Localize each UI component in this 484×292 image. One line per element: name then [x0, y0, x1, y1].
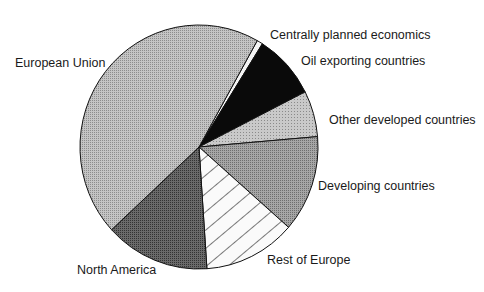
- label-other-developed: Other developed countries: [329, 113, 476, 127]
- label-european-union: European Union: [15, 56, 105, 70]
- label-developing: Developing countries: [318, 179, 435, 193]
- label-north-america: North America: [77, 263, 156, 277]
- label-centrally-planned: Centrally planned economics: [270, 28, 431, 42]
- label-rest-of-europe: Rest of Europe: [267, 253, 350, 267]
- pie-slices: [80, 25, 318, 269]
- pie-chart: [0, 0, 484, 292]
- label-oil-exporting: Oil exporting countries: [301, 54, 425, 68]
